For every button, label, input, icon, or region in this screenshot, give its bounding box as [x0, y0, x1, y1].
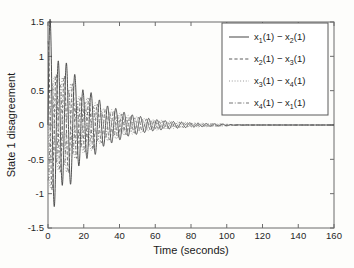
- x-tick-label: 20: [78, 230, 89, 241]
- legend-label: x4(1) − x1(1): [254, 97, 305, 110]
- x-tick-label: 120: [255, 230, 271, 241]
- y-tick-label: 0.5: [31, 85, 44, 96]
- y-tick-label: 1: [39, 51, 44, 62]
- chart-svg: 020406080100120140160 -1.5-1-0.500.511.5…: [0, 0, 354, 268]
- legend-label: x2(1) − x3(1): [254, 53, 305, 66]
- legend-label: x3(1) − x4(1): [254, 75, 305, 88]
- figure-container: 020406080100120140160 -1.5-1-0.500.511.5…: [0, 0, 354, 268]
- y-tick-label: -0.5: [28, 154, 44, 165]
- y-tick-label: -1.5: [28, 222, 44, 233]
- x-tick-label: 100: [219, 230, 235, 241]
- y-tick-label: -1: [36, 188, 44, 199]
- x-tick-label: 40: [114, 230, 125, 241]
- x-axis-label: Time (seconds): [153, 244, 228, 256]
- x-tick-label: 60: [150, 230, 161, 241]
- legend-label: x1(1) − x2(1): [254, 31, 305, 44]
- y-tick-label: 1.5: [31, 16, 44, 27]
- x-tick-label: 140: [290, 230, 306, 241]
- x-tick-label: 0: [45, 230, 50, 241]
- x-tick-label: 80: [186, 230, 197, 241]
- y-axis-label: State 1 disagreement: [5, 73, 17, 178]
- x-tick-label: 160: [326, 230, 342, 241]
- y-tick-label: 0: [39, 119, 44, 130]
- legend: x1(1) − x2(1)x2(1) − x3(1)x3(1) − x4(1)x…: [222, 23, 328, 115]
